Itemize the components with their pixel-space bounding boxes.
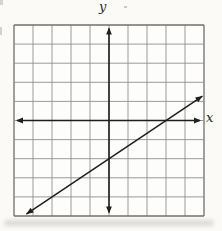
- scan-artifact: [0, 27, 2, 35]
- scan-shadow: [4, 220, 214, 226]
- scan-artifact: [0, 0, 3, 5]
- x-axis-label: x: [206, 111, 213, 125]
- coordinate-grid-figure: y x: [0, 0, 222, 231]
- scan-artifact: [124, 6, 127, 8]
- graph-svg: [0, 0, 222, 231]
- y-axis-label: y: [99, 0, 106, 14]
